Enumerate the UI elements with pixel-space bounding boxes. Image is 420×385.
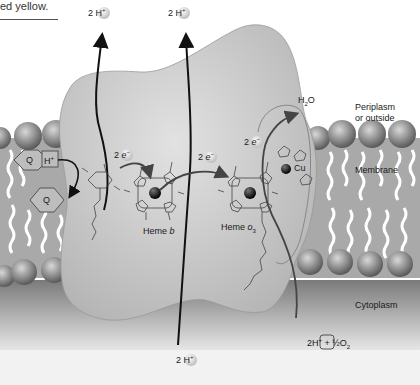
cytoplasm-label: Cytoplasm bbox=[355, 300, 398, 310]
heme-b-iron bbox=[149, 187, 161, 199]
heme-o3-label: Heme o3 bbox=[221, 222, 256, 234]
cu-atom bbox=[281, 164, 291, 174]
heme-b-label: Heme b bbox=[143, 226, 175, 236]
electron-label-3: 2 e− bbox=[244, 136, 260, 147]
membrane-label: Membrane bbox=[355, 165, 398, 175]
copper-label: Cu bbox=[294, 163, 306, 173]
proton-label-top-right: 2 H+ bbox=[168, 7, 186, 18]
caption-fragment: ed yellow. bbox=[0, 0, 48, 12]
quinone-proton-label: H+ bbox=[44, 155, 54, 166]
diagram-canvas bbox=[0, 0, 420, 385]
electron-label-2: 2 e− bbox=[198, 151, 214, 162]
cytochrome-oxidase-diagram: ed yellow. 2 H+ 2 H+ 2 H+ 2 e− 2 e− 2 e−… bbox=[0, 0, 420, 385]
proton-label-bottom: 2 H+ bbox=[176, 354, 194, 365]
heme-o3-iron bbox=[244, 187, 256, 199]
caption-divider bbox=[0, 19, 58, 20]
water-label: H2O bbox=[298, 95, 315, 107]
quinone-lower-label: Q bbox=[43, 195, 50, 205]
periplasm-label: Periplasmor outside bbox=[355, 102, 395, 124]
electron-label-1: 2 e− bbox=[114, 149, 130, 160]
proton-label-top-left: 2 H+ bbox=[88, 7, 106, 18]
reactants-label: 2H+ + ½O2 bbox=[307, 337, 350, 350]
quinone-upper-label: Q bbox=[26, 155, 33, 165]
